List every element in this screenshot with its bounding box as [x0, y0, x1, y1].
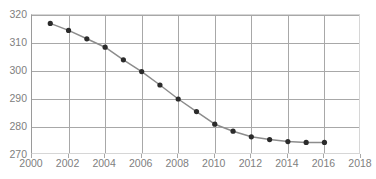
data-point-2007 — [157, 82, 162, 87]
y-tick-label-280: 280 — [0, 121, 27, 132]
data-point-2010 — [212, 122, 217, 127]
data-point-2008 — [176, 96, 181, 101]
data-point-2003 — [84, 36, 89, 41]
x-tick-label-2010: 2010 — [194, 158, 234, 169]
x-tick-label-2002: 2002 — [48, 158, 88, 169]
data-point-2006 — [139, 69, 144, 74]
data-point-2005 — [121, 57, 126, 62]
plot-area — [31, 14, 360, 154]
data-point-2015 — [304, 140, 309, 145]
y-tick-label-310: 310 — [0, 37, 27, 48]
y-tick-label-290: 290 — [0, 93, 27, 104]
data-point-2004 — [103, 45, 108, 50]
y-tick-label-300: 300 — [0, 65, 27, 76]
data-point-2012 — [249, 134, 254, 139]
series-polyline — [50, 23, 324, 142]
x-tick-label-2008: 2008 — [157, 158, 197, 169]
x-tick-label-2006: 2006 — [121, 158, 161, 169]
y-tick-label-320: 320 — [0, 9, 27, 20]
data-point-2002 — [66, 28, 71, 33]
x-tick-label-2016: 2016 — [303, 158, 343, 169]
data-point-2001 — [48, 21, 53, 26]
data-point-2011 — [230, 129, 235, 134]
data-point-2016 — [322, 140, 327, 145]
data-point-2013 — [267, 137, 272, 142]
data-point-2014 — [285, 139, 290, 144]
x-tick-label-2018: 2018 — [340, 158, 376, 169]
data-series-line — [32, 15, 361, 155]
x-tick-label-2004: 2004 — [84, 158, 124, 169]
x-tick-label-2000: 2000 — [11, 158, 51, 169]
data-point-2009 — [194, 109, 199, 114]
x-tick-label-2012: 2012 — [230, 158, 270, 169]
x-tick-label-2014: 2014 — [267, 158, 307, 169]
